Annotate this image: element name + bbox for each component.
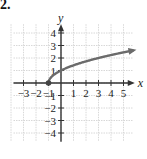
curve-end-arrow-icon [128, 48, 137, 55]
y-tick-label: 3 [51, 40, 57, 52]
x-tick-label: −3 [18, 87, 30, 99]
y-tick-label: −2 [44, 102, 56, 114]
axes: xy [14, 11, 144, 142]
y-tick-label: 2 [51, 52, 57, 64]
coordinate-plane-chart: xy −3−2−112345−4−3−2−11234 [0, 0, 147, 159]
x-tick-label: 2 [83, 87, 89, 99]
start-point-dot-icon [46, 80, 52, 86]
y-tick-label: −1 [44, 90, 56, 102]
x-tick-label: 1 [71, 87, 77, 99]
x-tick-label: 4 [108, 87, 114, 99]
y-tick-label: 4 [51, 27, 57, 39]
x-tick-label: 5 [121, 87, 127, 99]
y-tick-label: −3 [44, 115, 56, 127]
y-axis-label: y [57, 11, 64, 25]
y-axis-arrow-icon [58, 24, 64, 31]
x-axis-label: x [137, 76, 144, 90]
y-tick-label: −4 [44, 127, 56, 139]
x-tick-label: 3 [96, 87, 102, 99]
function-curve [46, 48, 137, 86]
x-tick-label: −2 [30, 87, 42, 99]
x-axis-arrow-icon [128, 80, 135, 86]
